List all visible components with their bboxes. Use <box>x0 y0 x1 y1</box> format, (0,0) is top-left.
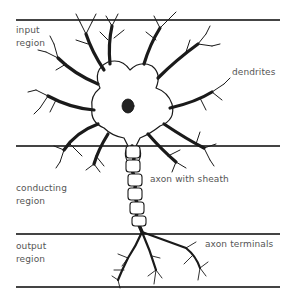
nucleus <box>122 99 134 113</box>
region-label-conducting-line1: conducting <box>16 182 67 195</box>
region-label-input-line2: region <box>16 37 45 50</box>
axon-terminal-branches <box>112 242 208 288</box>
region-label-input: input region <box>16 24 45 50</box>
region-label-conducting: conducting region <box>16 182 67 208</box>
region-label-conducting-line2: region <box>16 195 67 208</box>
axon-terminals <box>118 232 200 280</box>
part-label-axon: axon with sheath <box>150 173 229 186</box>
axon <box>125 146 146 232</box>
part-label-dendrites: dendrites <box>232 66 276 79</box>
region-label-output: output region <box>16 240 46 266</box>
region-label-output-line1: output <box>16 240 46 253</box>
neuron-diagram: input region conducting region output re… <box>0 0 294 297</box>
part-label-terminals: axon terminals <box>205 238 273 251</box>
region-label-input-line1: input <box>16 24 45 37</box>
region-label-output-line2: region <box>16 253 46 266</box>
